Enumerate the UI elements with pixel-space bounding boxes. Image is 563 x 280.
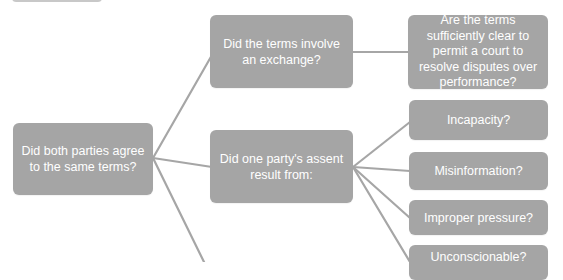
edge-root-offscreen [153, 158, 205, 262]
edge-root-assent [153, 158, 212, 167]
node-unconscionable: Unconscionable? [409, 245, 548, 280]
node-misinformation: Misinformation? [409, 152, 548, 190]
edge-assent-improper-pressure [353, 167, 410, 218]
node-clarity: Are the terms sufficiently clear to perm… [408, 15, 548, 89]
node-root-label: Did both parties agree to the same terms… [19, 143, 147, 175]
edge-root-exchange [153, 55, 212, 158]
node-unconscionable-label: Unconscionable? [431, 249, 527, 265]
edge-assent-misinformation [353, 167, 410, 171]
edge-assent-incapacity [353, 122, 410, 167]
node-misinformation-label: Misinformation? [434, 163, 522, 179]
node-exchange-label: Did the terms involve an exchange? [216, 36, 347, 68]
node-incapacity-label: Incapacity? [447, 112, 510, 128]
node-root: Did both parties agree to the same terms… [13, 123, 153, 195]
node-improper-pressure-label: Improper pressure? [424, 210, 533, 226]
node-exchange: Did the terms involve an exchange? [210, 15, 353, 88]
edge-assent-unconscionable [353, 167, 410, 262]
node-clarity-label: Are the terms sufficiently clear to perm… [414, 13, 542, 91]
node-improper-pressure: Improper pressure? [409, 200, 548, 235]
node-incapacity: Incapacity? [409, 100, 548, 140]
node-assent-label: Did one party's assent result from: [216, 151, 347, 183]
node-assent: Did one party's assent result from: [210, 130, 353, 203]
